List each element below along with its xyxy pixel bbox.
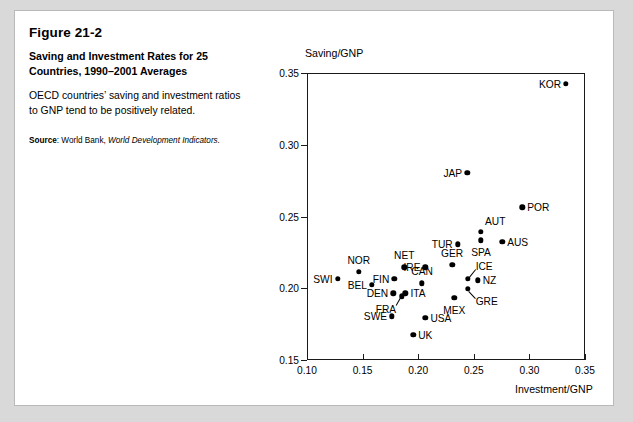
data-point-label: USA (430, 312, 451, 323)
data-point-label: NZ (483, 275, 497, 286)
data-point-label: BEL (348, 279, 367, 290)
data-point-label: KOR (539, 78, 561, 89)
data-point-label: SWE (364, 311, 387, 322)
scatter-plot: Saving/GNP Investment/GNP 0.350.300.250.… (261, 37, 601, 383)
data-point-label: AUS (507, 236, 528, 247)
y-tick-mark (301, 288, 307, 289)
y-tick-mark (301, 217, 307, 218)
x-tick-mark (529, 354, 530, 360)
x-tick-label: 0.30 (506, 365, 552, 376)
figure-card: Figure 21-2 Saving and Investment Rates … (14, 10, 614, 406)
source-separator: : World Bank, (57, 136, 108, 145)
x-tick-label: 0.25 (451, 365, 497, 376)
figure-number: Figure 21-2 (29, 25, 247, 40)
data-point-label: FIN (373, 273, 389, 284)
x-tick-mark (418, 354, 419, 360)
source-publication: World Development Indicators. (108, 136, 220, 145)
data-point-label: DEN (367, 288, 389, 299)
x-axis-title: Investment/GNP (515, 383, 593, 395)
y-tick-mark (301, 145, 307, 146)
y-tick-mark (301, 360, 307, 361)
x-tick-mark (474, 354, 475, 360)
data-point-label: NOR (347, 254, 370, 265)
source-lead: Source (29, 136, 57, 145)
figure-description: OECD countries’ saving and investment ra… (29, 89, 247, 119)
figure-title: Saving and Investment Rates for 25 Count… (29, 49, 247, 78)
x-tick-label: 0.10 (284, 365, 330, 376)
y-axis-title: Saving/GNP (305, 47, 363, 59)
y-tick-label: 0.30 (265, 139, 299, 150)
figure-source: Source: World Bank, World Development In… (29, 135, 247, 146)
data-point-label: NET (394, 250, 414, 261)
data-point-label: SPA (471, 247, 491, 258)
x-tick-mark (585, 354, 586, 360)
data-point-label: CAN (411, 266, 433, 277)
y-tick-label: 0.25 (265, 211, 299, 222)
x-tick-label: 0.20 (395, 365, 441, 376)
data-point-label: ICE (476, 260, 493, 271)
data-point-label: SWI (313, 273, 332, 284)
x-tick-mark (363, 354, 364, 360)
y-tick-label: 0.15 (265, 355, 299, 366)
caption-panel: Figure 21-2 Saving and Investment Rates … (29, 25, 247, 146)
data-point-label: UK (418, 329, 432, 340)
y-tick-mark (301, 73, 307, 74)
data-point-label: POR (527, 202, 549, 213)
data-point-label: GER (441, 247, 463, 258)
data-point-label: ITA (410, 288, 425, 299)
data-point-label: AUT (485, 215, 505, 226)
x-tick-label: 0.35 (562, 365, 608, 376)
data-point-label: GRE (476, 295, 498, 306)
data-point-label: JAP (443, 167, 462, 178)
y-tick-label: 0.20 (265, 283, 299, 294)
y-tick-label: 0.35 (265, 68, 299, 79)
x-tick-label: 0.15 (340, 365, 386, 376)
